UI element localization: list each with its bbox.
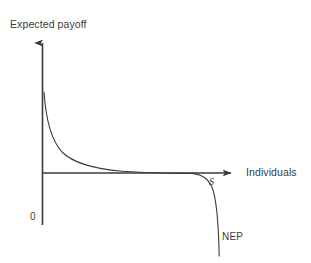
nep-curve (44, 92, 219, 256)
chart-figure: Expected payoff Individuals 0 S NEP (0, 0, 311, 263)
equilibrium-marker-label: S (209, 177, 214, 187)
y-axis-label: Expected payoff (10, 19, 87, 30)
x-axis-label: Individuals (246, 167, 297, 178)
origin-label: 0 (30, 212, 36, 222)
chart-plot-area (0, 0, 311, 263)
nep-curve-label: NEP (222, 232, 243, 242)
